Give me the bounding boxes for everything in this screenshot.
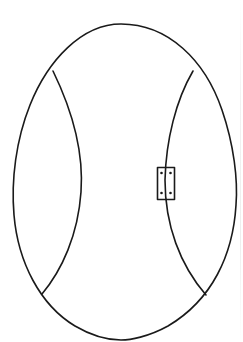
left-seam-line	[42, 71, 81, 294]
egg-diagram-svg	[0, 0, 243, 342]
clasp-dot-top-left	[160, 172, 163, 175]
clasp-dot-bottom-right	[169, 192, 172, 195]
clasp-dot-bottom-left	[160, 192, 163, 195]
scan-edge-artifact	[240, 0, 241, 342]
egg-diagram	[0, 0, 243, 342]
clasp-dot-top-right	[169, 172, 172, 175]
right-seam-line	[165, 71, 206, 295]
